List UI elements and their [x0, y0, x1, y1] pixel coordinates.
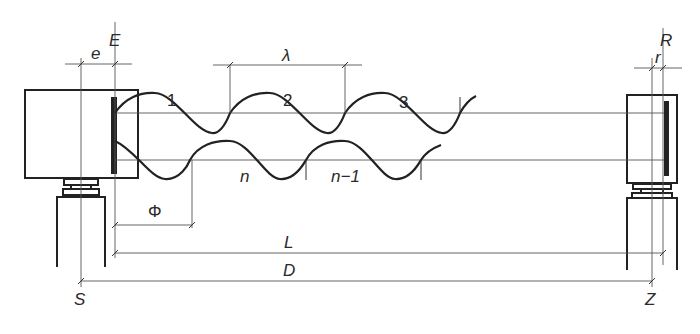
label-Z: Z — [644, 290, 656, 309]
dimension-D — [78, 278, 655, 284]
cycle-label-1: 1 — [167, 91, 176, 110]
label-r: r — [655, 48, 662, 67]
label-S: S — [74, 290, 86, 309]
label-D: D — [283, 261, 295, 280]
label-R: R — [660, 31, 672, 50]
dimension-L — [112, 250, 666, 256]
cycle-label-n: n — [240, 167, 249, 186]
emitter-bar — [111, 97, 117, 174]
label-e: e — [91, 44, 100, 63]
dimension-phase — [112, 222, 195, 228]
label-E: E — [109, 31, 121, 50]
distance-measurement-diagram: E e λ R r 1 2 3 n n−1 Φ L D S Z — [0, 0, 700, 334]
emitter-instrument — [25, 90, 138, 267]
label-lambda: λ — [281, 46, 290, 65]
cycle-label-n-minus-1: n−1 — [331, 167, 360, 186]
label-phi: Φ — [148, 202, 162, 221]
cycle-label-2: 2 — [283, 91, 292, 110]
label-L: L — [284, 233, 293, 252]
reflector-bar — [664, 101, 669, 176]
emitter-housing — [25, 90, 138, 178]
cycle-label-3: 3 — [399, 93, 408, 112]
